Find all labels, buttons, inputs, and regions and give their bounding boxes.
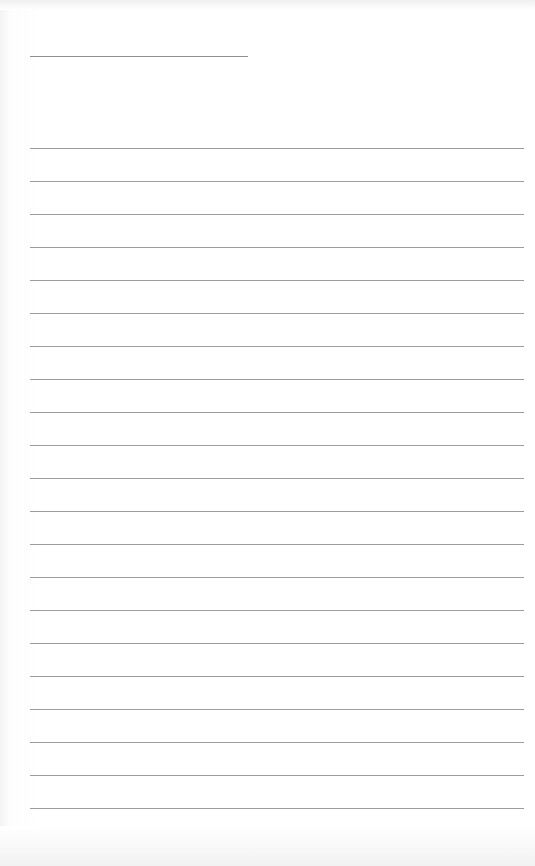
- ruled-line: [30, 379, 524, 380]
- ruled-line: [30, 412, 524, 413]
- ruled-line: [30, 709, 524, 710]
- page-bottom-edge: [0, 826, 535, 866]
- ruled-line: [30, 478, 524, 479]
- ruled-line: [30, 181, 524, 182]
- ruled-line: [30, 313, 524, 314]
- ruled-line: [30, 544, 524, 545]
- ruled-line: [30, 577, 524, 578]
- page-top-edge: [0, 0, 535, 10]
- ruled-line: [30, 511, 524, 512]
- ruled-line: [30, 676, 524, 677]
- ruled-line: [30, 610, 524, 611]
- ruled-line: [30, 775, 524, 776]
- ruled-line: [30, 742, 524, 743]
- ruled-line: [30, 808, 524, 809]
- header-line: [30, 56, 248, 57]
- lined-paper-page: [0, 0, 535, 866]
- ruled-line: [30, 643, 524, 644]
- ruled-line: [30, 247, 524, 248]
- ruled-line: [30, 445, 524, 446]
- ruled-line: [30, 280, 524, 281]
- ruled-line: [30, 214, 524, 215]
- ruled-line: [30, 346, 524, 347]
- ruled-line: [30, 148, 524, 149]
